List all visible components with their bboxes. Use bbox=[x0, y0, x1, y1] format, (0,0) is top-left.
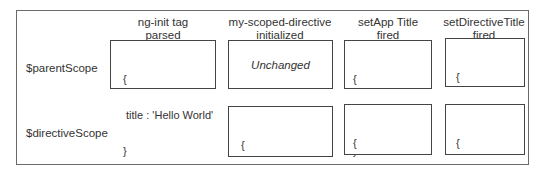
directive-scope-directive-init-box: { title : 'Hello World' } bbox=[228, 106, 333, 157]
column-header-ng-init: ng-init tag parsed bbox=[108, 16, 218, 42]
scope-object: { title : 'bob' } bbox=[456, 113, 508, 175]
directive-scope-setapp-box: { title : 'App 2.0' } bbox=[344, 104, 432, 155]
parent-scope-setapp-box: { title : 'App 2.0' } bbox=[344, 40, 432, 89]
parent-scope-directive-init-box: Unchanged bbox=[228, 40, 333, 89]
row-label-directive-scope: $directiveScope bbox=[26, 127, 108, 139]
column-header-line1: my-scoped-directive bbox=[222, 16, 338, 29]
scope-object: { title : 'App 2.0' } bbox=[353, 113, 424, 175]
parent-scope-setdirective-box: { title : 'bob' } bbox=[445, 38, 525, 87]
directive-scope-setdirective-box: { title : 'bob' } bbox=[445, 104, 525, 155]
scope-object: { title : 'Hello World' } bbox=[123, 49, 213, 175]
column-header-line1: ng-init tag bbox=[108, 16, 218, 29]
unchanged-label: Unchanged bbox=[229, 41, 332, 88]
column-header-setapp: setApp Title fired bbox=[340, 16, 436, 42]
parent-scope-ng-init-box: { title : 'Hello World' } bbox=[110, 40, 216, 89]
column-header-line1: setDirectiveTitle bbox=[440, 16, 528, 29]
scope-object: { title : 'Hello World' } bbox=[241, 115, 331, 175]
column-header-line1: setApp Title bbox=[340, 16, 436, 29]
row-label-parent-scope: $parentScope bbox=[26, 62, 98, 74]
column-header-directive-init: my-scoped-directive initialized bbox=[222, 16, 338, 42]
